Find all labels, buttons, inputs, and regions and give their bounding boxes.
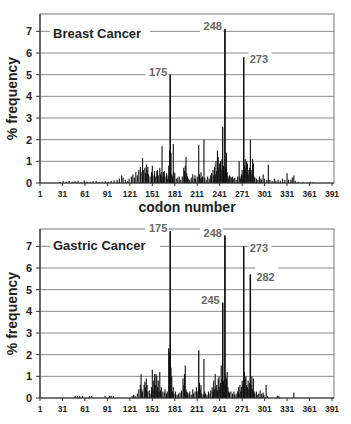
- bar: [274, 179, 275, 183]
- bar: [293, 175, 294, 183]
- peak-annotation: 175: [149, 66, 167, 78]
- bar: [129, 179, 130, 183]
- x-tick-label: 361: [302, 404, 316, 414]
- x-tick-label: 241: [213, 189, 227, 199]
- bar: [158, 175, 159, 183]
- peak-annotation: 273: [250, 242, 268, 254]
- bar: [141, 172, 142, 183]
- bar: [264, 179, 265, 183]
- peak-bar: [222, 303, 223, 398]
- peak-annotation: 273: [250, 53, 268, 65]
- x-tick-label: 211: [190, 404, 204, 414]
- bar: [179, 393, 180, 398]
- chart-title: Gastric Cancer: [53, 238, 146, 253]
- x-tick-label: 331: [280, 404, 294, 414]
- bar: [259, 177, 260, 184]
- bar: [142, 392, 143, 399]
- bar: [164, 389, 165, 398]
- x-axis-label: codon number: [138, 199, 236, 212]
- bar: [292, 178, 293, 183]
- bar: [178, 394, 179, 398]
- y-tick-label: 6: [26, 262, 32, 274]
- x-tick-label: 61: [80, 404, 90, 414]
- bar: [191, 178, 192, 183]
- bar: [179, 177, 180, 184]
- bar: [208, 392, 209, 399]
- bar: [287, 173, 288, 183]
- bar: [137, 394, 138, 398]
- bar: [268, 165, 269, 183]
- bar: [209, 179, 210, 183]
- x-tick-label: 391: [325, 189, 339, 199]
- x-tick-label: 271: [235, 404, 249, 414]
- bar: [207, 177, 208, 184]
- bar: [210, 390, 211, 398]
- bar: [176, 179, 177, 183]
- bar: [161, 387, 162, 398]
- bar: [143, 170, 144, 183]
- peak-annotation: 248: [204, 20, 222, 32]
- bar: [266, 385, 267, 398]
- bar: [132, 174, 133, 183]
- y-axis-label: % frequency: [4, 57, 20, 140]
- y-tick-label: 6: [26, 47, 32, 59]
- bar: [254, 394, 255, 398]
- x-tick-label: 361: [302, 189, 316, 199]
- y-tick-label: 3: [26, 112, 32, 124]
- x-tick-label: 91: [103, 189, 113, 199]
- bar: [134, 178, 135, 183]
- x-tick-label: 211: [190, 189, 204, 199]
- bar: [174, 173, 175, 183]
- bar: [187, 393, 188, 398]
- x-tick-label: 121: [123, 189, 137, 199]
- peak-annotation: 245: [201, 294, 219, 306]
- peak-bar: [243, 57, 244, 183]
- bar: [137, 175, 138, 183]
- bar: [229, 393, 230, 398]
- bar: [282, 179, 283, 183]
- breast-cancer-chart: Breast Cancer012345671316191121151181211…: [0, 0, 351, 212]
- peak-bar: [170, 75, 171, 183]
- x-tick-label: 181: [168, 189, 182, 199]
- peak-annotation: 248: [204, 227, 222, 239]
- bar: [256, 179, 257, 183]
- x-tick-label: 91: [103, 404, 113, 414]
- bar: [261, 394, 262, 398]
- bar: [194, 392, 195, 399]
- gastric-cancer-chart: Gastric Cancer01234567131619112115118121…: [0, 212, 351, 424]
- bar: [233, 179, 234, 183]
- y-tick-label: 0: [26, 392, 32, 404]
- bar: [189, 392, 190, 399]
- peak-annotation: 175: [149, 222, 167, 234]
- bar: [150, 177, 151, 184]
- peak-bar: [224, 236, 225, 399]
- y-tick-label: 3: [26, 327, 32, 339]
- bar: [131, 177, 132, 184]
- bar: [201, 394, 202, 398]
- bar: [197, 177, 198, 184]
- x-tick-label: 151: [145, 189, 159, 199]
- figure: Breast Cancer012345671316191121151181211…: [0, 0, 351, 424]
- x-tick-label: 301: [258, 404, 272, 414]
- x-tick-label: 271: [235, 189, 249, 199]
- bar: [230, 177, 231, 184]
- bar: [260, 390, 261, 398]
- bar: [164, 177, 165, 184]
- y-tick-label: 4: [26, 305, 33, 317]
- bar: [193, 394, 194, 398]
- bar: [204, 178, 205, 183]
- x-tick-label: 31: [58, 189, 68, 199]
- y-tick-label: 2: [26, 134, 32, 146]
- peak-bar: [170, 231, 171, 398]
- y-tick-label: 1: [26, 155, 32, 167]
- x-tick-label: 121: [123, 404, 137, 414]
- peak-bar: [250, 275, 251, 399]
- x-tick-label: 1: [38, 404, 43, 414]
- breast-cancer-panel: Breast Cancer012345671316191121151181211…: [0, 0, 351, 212]
- x-tick-label: 61: [80, 189, 90, 199]
- bar: [211, 173, 212, 183]
- bar: [147, 392, 148, 399]
- bar: [121, 175, 122, 183]
- bar: [197, 392, 198, 399]
- bar: [155, 177, 156, 184]
